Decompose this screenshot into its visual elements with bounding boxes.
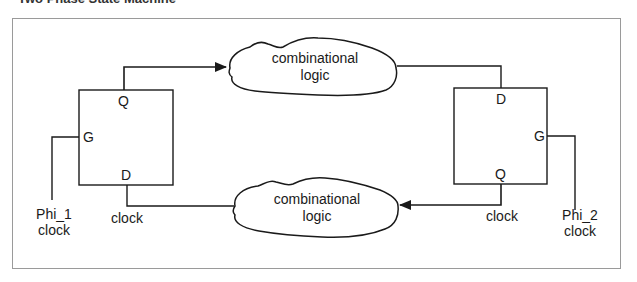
- latch-right-pin-q: Q: [495, 166, 506, 182]
- wire-q-left-to-cloud-top: [124, 67, 226, 90]
- latch-left-pin-d: D: [121, 167, 131, 183]
- latch-left-wire-clock-label: clock: [111, 210, 143, 226]
- latch-right-wire-clock-label: clock: [486, 208, 518, 224]
- phi2-label-line1: Phi_2: [561, 207, 599, 223]
- wire-phi2-clock: [547, 136, 575, 210]
- latch-left-pin-q: Q: [118, 93, 129, 109]
- wire-q-right-to-cloud-bottom: [400, 184, 501, 205]
- cloud-bottom-line1: combinational: [255, 191, 379, 208]
- cloud-top-label: combinational logic: [253, 50, 377, 84]
- cloud-top-line1: combinational: [253, 50, 377, 67]
- latch-left-pin-g: G: [83, 129, 94, 145]
- wire-cloud-top-to-d-right: [397, 66, 501, 88]
- cloud-bottom-line2: logic: [255, 208, 379, 225]
- phi1-clock-label: Phi_1 clock: [36, 206, 72, 238]
- phi1-label-line2: clock: [36, 222, 72, 238]
- latch-right-pin-g: G: [534, 128, 545, 144]
- cloud-top-line2: logic: [253, 67, 377, 84]
- latch-right-pin-d: D: [496, 91, 506, 107]
- phi2-clock-label: Phi_2 clock: [561, 207, 599, 239]
- cloud-bottom-label: combinational logic: [255, 191, 379, 225]
- wire-phi1-clock: [52, 137, 79, 200]
- wire-cloud-bottom-to-d-left: [127, 185, 234, 206]
- phi1-label-line1: Phi_1: [36, 206, 72, 222]
- phi2-label-line2: clock: [561, 223, 599, 239]
